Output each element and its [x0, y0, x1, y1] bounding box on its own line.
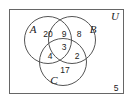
region-a-c-only: 4 [48, 51, 53, 61]
region-outside: 5 [114, 83, 119, 93]
region-a-b-c: 3 [62, 42, 67, 52]
universe-label: U [111, 10, 120, 22]
region-a-b-only: 9 [62, 29, 67, 39]
set-a-label: A [29, 23, 37, 35]
set-c-label: C [50, 74, 58, 86]
universe-rectangle [10, 10, 124, 94]
region-b-c-only: 2 [75, 51, 80, 61]
set-b-label: B [90, 23, 97, 35]
region-c-only: 17 [60, 65, 70, 75]
region-a-only: 20 [43, 29, 53, 39]
venn-diagram: A B C U 20 9 8 3 4 2 17 5 [0, 0, 128, 103]
region-b-only: 8 [77, 29, 82, 39]
